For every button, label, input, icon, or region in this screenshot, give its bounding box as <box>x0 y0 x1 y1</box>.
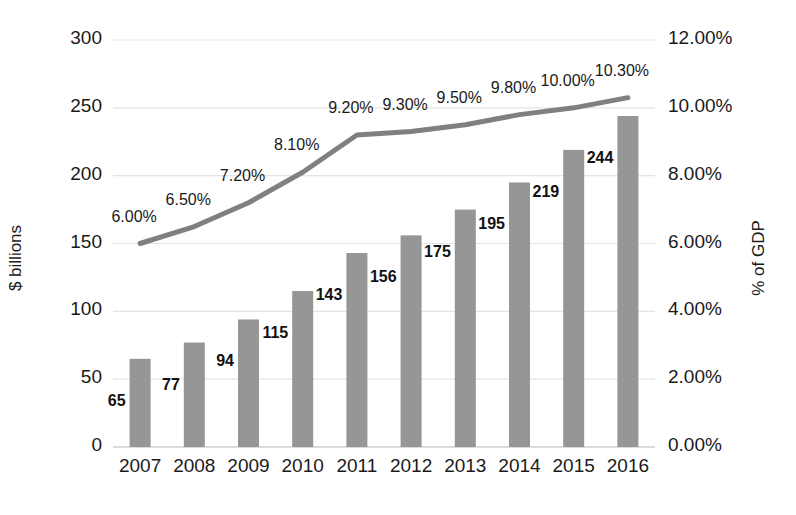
x-axis-tick-label: 2007 <box>109 455 171 477</box>
y-axis-right-tick-label: 8.00% <box>668 163 722 185</box>
y-axis-left-tick-label: 250 <box>32 95 102 117</box>
bar-value-label: 143 <box>296 286 342 304</box>
bar[interactable] <box>292 291 313 447</box>
bar-value-label: 77 <box>134 376 180 394</box>
y-axis-left-tick-label: 100 <box>32 298 102 320</box>
y-axis-left-tick-label: 150 <box>32 231 102 253</box>
line-value-label: 8.10% <box>266 136 328 154</box>
x-axis-tick-label: 2011 <box>326 455 388 477</box>
y-axis-right-tick-label: 6.00% <box>668 231 722 253</box>
line-value-label: 6.50% <box>157 191 219 209</box>
bar-value-label: 195 <box>459 215 505 233</box>
x-axis-tick-label: 2008 <box>163 455 225 477</box>
bar-value-label: 115 <box>242 324 288 342</box>
bar[interactable] <box>401 235 422 447</box>
bar[interactable] <box>455 210 476 447</box>
y-axis-right-tick-label: 10.00% <box>668 95 732 117</box>
y-axis-right-tick-label: 0.00% <box>668 434 722 456</box>
bar[interactable] <box>617 116 638 447</box>
line-value-label: 9.30% <box>374 96 436 114</box>
x-axis-tick-label: 2009 <box>218 455 280 477</box>
x-axis-tick-label: 2014 <box>489 455 551 477</box>
line-value-label: 6.00% <box>103 208 165 226</box>
y-axis-left-tick-label: 50 <box>32 366 102 388</box>
chart-container: 050100150200250300 0.00%2.00%4.00%6.00%8… <box>0 0 796 515</box>
y-axis-left-tick-label: 0 <box>32 434 102 456</box>
x-axis-tick-label: 2015 <box>543 455 605 477</box>
line-value-label: 7.20% <box>212 167 274 185</box>
y-axis-right-tick-label: 12.00% <box>668 27 732 49</box>
bar[interactable] <box>509 182 530 447</box>
line-value-label: 9.80% <box>483 79 545 97</box>
line-value-label: 10.30% <box>591 62 653 80</box>
bar-value-label: 244 <box>567 149 613 167</box>
x-axis-tick-label: 2016 <box>597 455 659 477</box>
line-value-label: 10.00% <box>537 72 599 90</box>
y-axis-left-title: $ billions <box>6 198 26 318</box>
bar-value-label: 156 <box>351 268 397 286</box>
x-axis-tick-label: 2012 <box>380 455 442 477</box>
y-axis-right-tick-label: 2.00% <box>668 366 722 388</box>
bar-value-label: 175 <box>405 243 451 261</box>
bar-value-label: 219 <box>513 183 559 201</box>
y-axis-left-tick-label: 200 <box>32 163 102 185</box>
line-value-label: 9.50% <box>428 89 490 107</box>
x-axis-tick-label: 2010 <box>272 455 334 477</box>
x-axis-tick-label: 2013 <box>434 455 496 477</box>
y-axis-right-tick-label: 4.00% <box>668 298 722 320</box>
line-value-label: 9.20% <box>320 99 382 117</box>
bar[interactable] <box>130 359 151 447</box>
bar-value-label: 65 <box>80 392 126 410</box>
bar-value-label: 94 <box>188 352 234 370</box>
y-axis-left-tick-label: 300 <box>32 27 102 49</box>
y-axis-right-title: % of GDP <box>749 193 769 323</box>
bar[interactable] <box>563 150 584 447</box>
